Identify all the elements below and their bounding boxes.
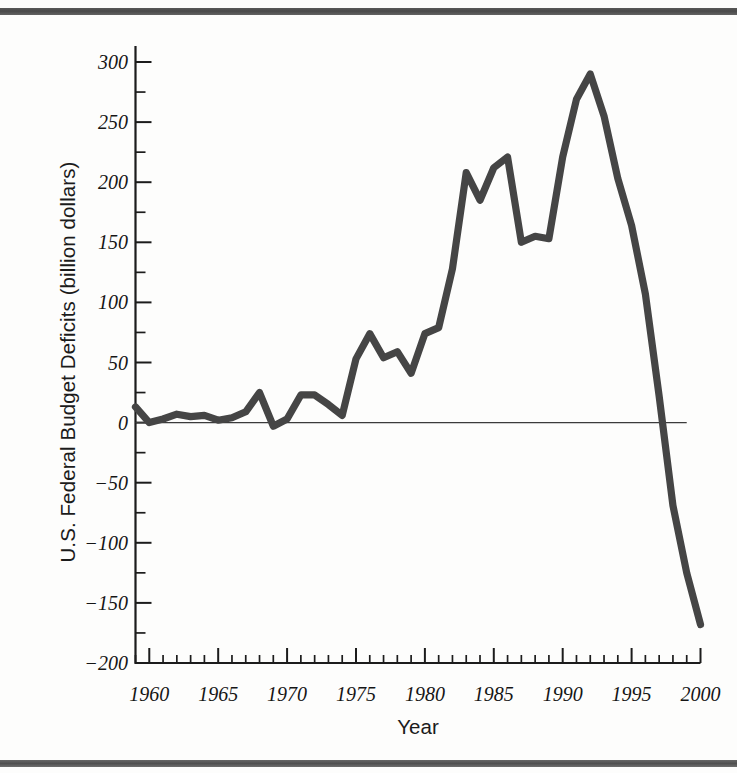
y-tick-label: −100	[42, 531, 128, 554]
line-chart-figure: −200−150−100−50050100150200250300 196019…	[0, 15, 737, 760]
figure-page: −200−150−100−50050100150200250300 196019…	[0, 0, 737, 773]
y-tick-label: −150	[42, 591, 128, 614]
deficit-series-line	[136, 74, 701, 625]
y-tick-label: 250	[42, 111, 128, 134]
y-tick-label: 100	[42, 291, 128, 314]
y-tick-label: 200	[42, 171, 128, 194]
y-axis-tick-labels: −200−150−100−50050100150200250300	[36, 15, 128, 760]
y-tick-label: −50	[42, 471, 128, 494]
x-axis-title: Year	[135, 715, 701, 739]
y-axis-ticks	[136, 62, 152, 663]
y-tick-label: 50	[42, 351, 128, 374]
y-tick-label: −200	[42, 652, 128, 675]
y-tick-label: 0	[42, 411, 128, 434]
y-tick-label: 150	[42, 231, 128, 254]
page-rule-top	[0, 8, 737, 15]
page-rule-bottom	[0, 760, 737, 767]
x-axis-ticks	[136, 648, 701, 663]
y-tick-label: 300	[42, 51, 128, 74]
y-axis-title: U.S. Federal Budget Deficits (billion do…	[56, 82, 80, 642]
x-tick-label: 2000	[656, 683, 737, 706]
